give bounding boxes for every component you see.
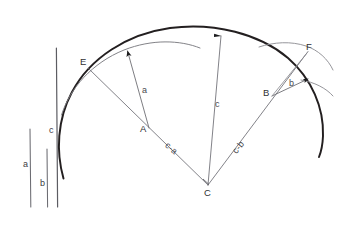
segment-label-b: b — [289, 79, 294, 88]
ray-C-to-F — [208, 52, 308, 186]
reference-segment-b — [47, 149, 48, 207]
reference-label-a: a — [23, 160, 28, 169]
inner-arc-a — [62, 42, 201, 115]
reference-segment-a — [30, 129, 31, 207]
outer-arc-b-lower — [301, 80, 333, 96]
segment-label-a: a — [142, 86, 147, 95]
point-label-A: A — [140, 124, 147, 134]
ray-C-to-apex — [208, 36, 221, 185]
reference-label-b: b — [40, 179, 45, 188]
geometry-canvas — [0, 0, 353, 241]
main-arc-group — [59, 26, 323, 178]
reference-label-c: c — [49, 126, 54, 135]
reference-segment-c — [56, 48, 57, 207]
point-label-C: C — [204, 188, 211, 198]
geometric-construction-diagram: E A C B F a b c a c b c-a c-b — [0, 0, 353, 241]
outer-arc-b-group — [259, 43, 333, 96]
radial-rays-group — [89, 36, 309, 185]
inner-arc-a-group — [62, 42, 201, 115]
point-label-E: E — [80, 57, 87, 67]
point-label-F: F — [306, 42, 312, 52]
main-outer-arc — [59, 26, 323, 178]
point-label-B: B — [263, 88, 270, 98]
segment-label-c-radius: c — [215, 100, 220, 109]
